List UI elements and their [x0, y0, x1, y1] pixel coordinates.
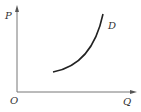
x-axis-label: Q — [123, 96, 131, 107]
curve-label: D — [107, 20, 116, 31]
origin-label: O — [10, 95, 18, 106]
x-axis-arrow-icon — [130, 90, 137, 94]
y-axis-label: P — [4, 10, 12, 21]
y-axis-arrow-icon — [15, 5, 19, 12]
curve-d — [53, 14, 103, 72]
diagram-canvas: P Q O D — [0, 0, 141, 112]
